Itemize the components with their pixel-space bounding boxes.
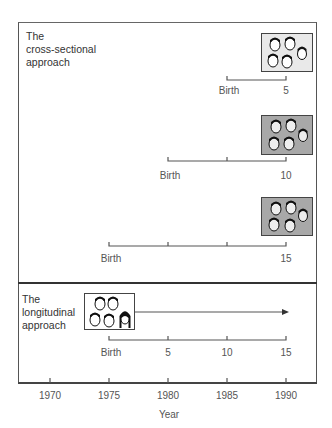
cohort-15-start-label: Birth [101, 253, 122, 264]
cohort-15-end-label: 15 [280, 253, 291, 264]
age-brackets [0, 0, 332, 428]
longitudinal-age-birth: Birth [101, 347, 122, 358]
longitudinal-title: The longitudinal approach [22, 293, 75, 332]
cohort-10-start-label: Birth [160, 170, 181, 181]
longitudinal-photo-icon [84, 293, 135, 330]
year-tick-1970: 1970 [39, 390, 61, 401]
faces-icon [85, 294, 136, 331]
longitudinal-age-10: 10 [221, 347, 232, 358]
cohort-10-end-label: 10 [280, 170, 291, 181]
longitudinal-age-5: 5 [165, 347, 171, 358]
cohort-5-end-label: 5 [283, 85, 289, 96]
x-axis-label: Year [159, 409, 179, 420]
year-tick-1975: 1975 [98, 390, 120, 401]
year-tick-1980: 1980 [157, 390, 179, 401]
year-tick-1990: 1990 [275, 390, 297, 401]
arrow-head-icon [282, 309, 289, 315]
longitudinal-age-15: 15 [280, 347, 291, 358]
cohort-5-start-label: Birth [219, 85, 240, 96]
year-tick-1985: 1985 [216, 390, 238, 401]
